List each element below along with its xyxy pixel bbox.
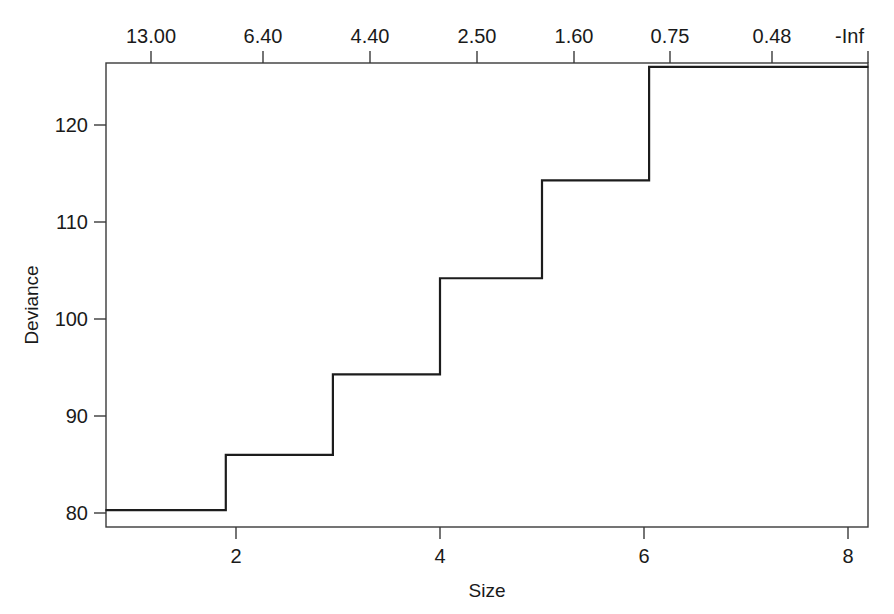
- x-axis: 2 4 6 8 Size: [230, 527, 853, 601]
- top-tick-label-4: 1.60: [555, 25, 594, 47]
- y-axis: 120 110 100 90 80 Deviance: [21, 114, 106, 524]
- top-tick-label-2: 4.40: [351, 25, 390, 47]
- top-tick-label-3: 2.50: [458, 25, 497, 47]
- plot-frame: [106, 63, 868, 527]
- x-tick-label-2: 2: [230, 545, 241, 567]
- top-tick-label-5: 0.75: [651, 25, 690, 47]
- x-tick-label-6: 6: [638, 545, 649, 567]
- y-tick-label-90: 90: [66, 405, 88, 427]
- y-tick-label-80: 80: [66, 502, 88, 524]
- top-axis: 13.00 6.40 4.40 2.50 1.60 0.75 0.48 -Inf: [126, 25, 868, 63]
- y-tick-label-110: 110: [56, 211, 88, 233]
- y-axis-title: Deviance: [21, 265, 42, 344]
- x-tick-label-8: 8: [842, 545, 853, 567]
- top-tick-label-6: 0.48: [753, 25, 792, 47]
- figure-page: 13.00 6.40 4.40 2.50 1.60 0.75 0.48 -Inf…: [0, 0, 894, 614]
- x-tick-label-4: 4: [434, 545, 445, 567]
- step-series-line: [105, 67, 868, 510]
- top-tick-label-1: 6.40: [244, 25, 283, 47]
- y-tick-label-100: 100: [55, 308, 88, 330]
- top-tick-label-7: -Inf: [835, 25, 864, 47]
- x-axis-title: Size: [469, 580, 506, 601]
- y-tick-label-120: 120: [55, 114, 88, 136]
- top-tick-label-0: 13.00: [126, 25, 176, 47]
- deviance-vs-size-step-chart: 13.00 6.40 4.40 2.50 1.60 0.75 0.48 -Inf…: [0, 0, 894, 614]
